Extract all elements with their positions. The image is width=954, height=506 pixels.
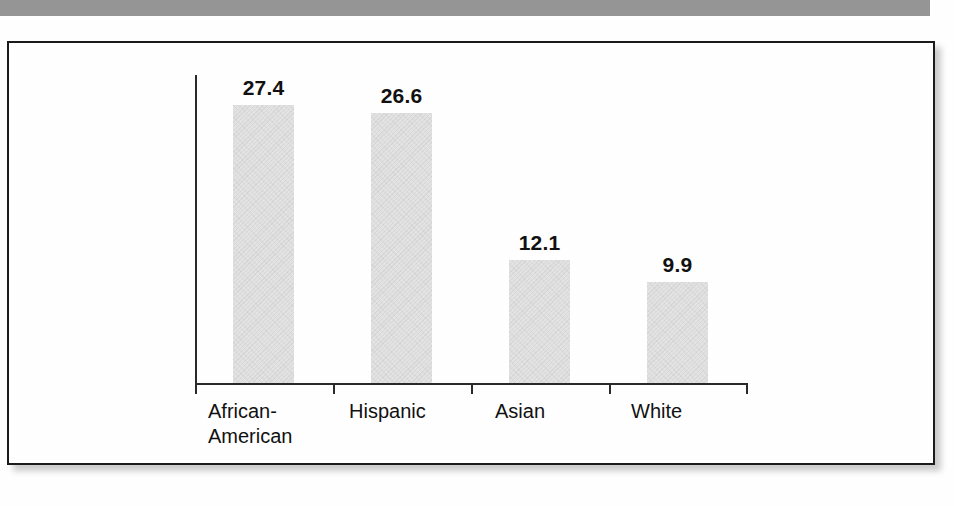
cut-off-title-band [0,0,930,16]
bar-chart-plot-area: 27.4 26.6 12.1 9.9 African- American His… [9,43,933,463]
figure-frame: 27.4 26.6 12.1 9.9 African- American His… [7,41,935,465]
bar-value-white: 9.9 [637,253,718,277]
bar-asian [509,260,570,383]
bar-white [647,282,708,383]
bar-value-african-american: 27.4 [223,76,304,100]
x-axis-tick [471,385,473,394]
category-label-african-american: African- American [208,399,348,449]
category-label-asian: Asian [495,399,635,424]
x-axis-tick [609,385,611,394]
category-label-white: White [631,399,771,424]
x-axis-tick [195,385,197,394]
y-axis-line [195,75,197,385]
x-axis-tick [333,385,335,394]
bar-value-asian: 12.1 [499,231,580,255]
bar-hispanic [371,113,432,383]
bar-value-hispanic: 26.6 [361,84,442,108]
category-label-hispanic: Hispanic [349,399,489,424]
x-axis-tick [746,385,748,394]
bar-african-american [233,105,294,383]
